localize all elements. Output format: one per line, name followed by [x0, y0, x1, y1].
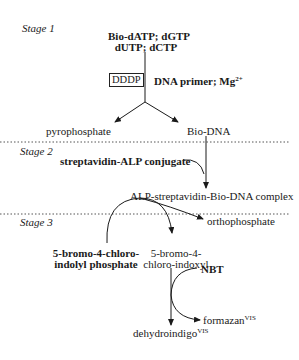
- dehydroindigo-label: dehydroindigoVIS: [133, 327, 208, 339]
- stage-2-label: Stage 2: [20, 145, 53, 157]
- stage-3-label: Stage 3: [20, 216, 53, 228]
- formazan-label: formazanVIS: [203, 314, 256, 326]
- reactants-line-2: dUTP; dCTP: [108, 41, 184, 53]
- pyrophosphate-label: pyrophosphate: [46, 125, 111, 137]
- bio-dna-label: Bio-DNA: [187, 125, 230, 137]
- diagram-arrows: [0, 0, 299, 360]
- substrate-line-2: indolyl phosphate: [50, 258, 142, 270]
- alp-complex-label: ALP-streptavidin-Bio-DNA complex: [130, 190, 293, 202]
- stage-1-label: Stage 1: [22, 22, 55, 34]
- nbt-label: NBT: [201, 263, 224, 275]
- cofactors-label: DNA primer; Mg2+: [154, 75, 243, 87]
- streptavidin-alp-conjugate-label: streptavidin-ALP conjugate: [60, 155, 190, 167]
- enzyme-box-dddp: DDDP: [109, 73, 144, 87]
- orthophosphate-label: orthophosphate: [207, 215, 275, 227]
